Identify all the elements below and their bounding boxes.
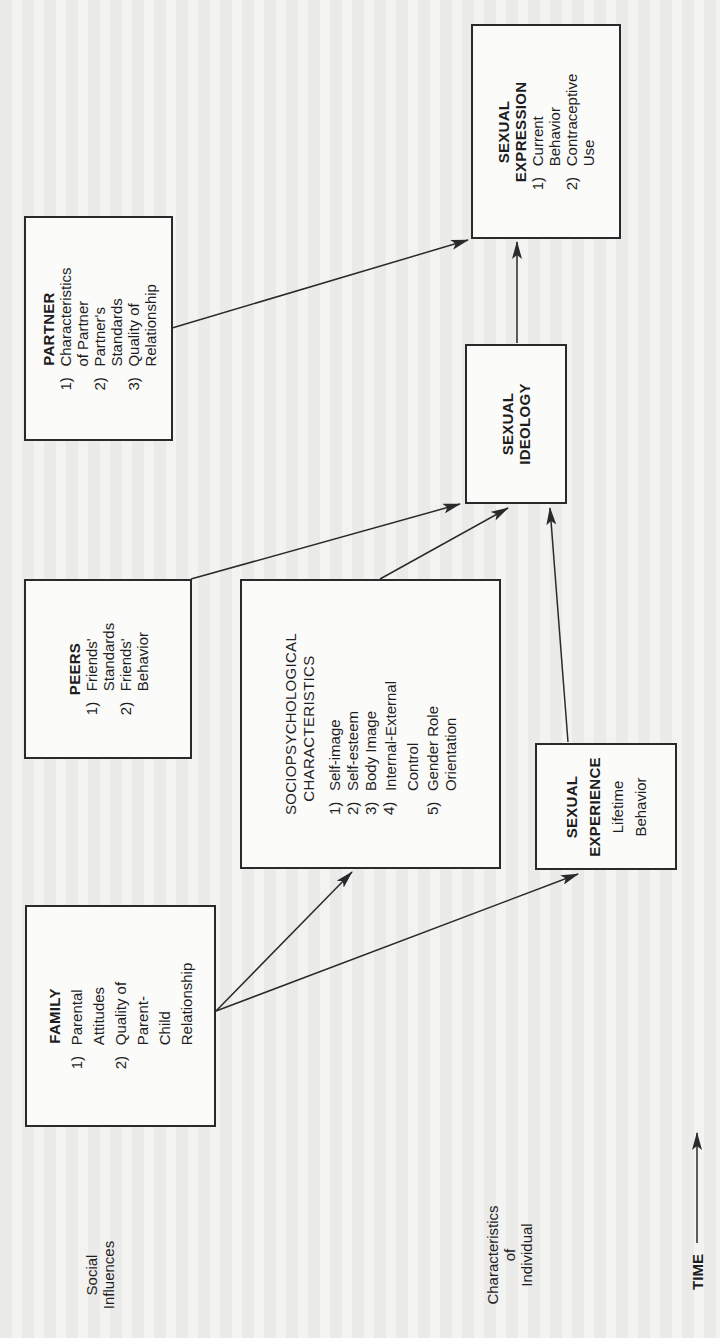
peers-box: PEERS 1)Friends' Standards 2)Friends' Be… <box>24 579 192 759</box>
arrow-peers-to-sexual-ideology <box>191 504 460 579</box>
sexual-experience-box: SEXUAL EXPERIENCE Lifetime Behavior <box>535 743 677 870</box>
list-item: 2)Partner's Standards <box>90 267 124 390</box>
sexual-expression-box: SEXUAL EXPRESSION 1)Current Behavior 2)C… <box>471 24 621 239</box>
arrow-sexual-experience-to-sexual-ideology <box>550 508 568 742</box>
sexual-experience-subtitle: Lifetime Behavior <box>606 757 652 857</box>
list-item: 3)Body Image <box>362 633 380 815</box>
partner-title: PARTNER <box>39 267 56 390</box>
arrow-sociopsychological-to-sexual-ideology <box>380 508 508 579</box>
partner-content: PARTNER 1)Characteristics of Partner 2)P… <box>39 267 158 390</box>
list-item: 3)Quality of Relationship <box>124 267 158 390</box>
label-social-influences: Social Influences <box>83 1241 117 1309</box>
sexual-ideology-content: SEXUAL IDEOLOGY <box>499 383 533 465</box>
list-item: 2)Friends' Behavior <box>117 623 151 715</box>
label-time: TIME <box>689 1254 706 1290</box>
family-box: FAMILY 1)Parental Attitudes 2)Quality of… <box>25 905 216 1127</box>
sociopsychological-items: 1)Self-image 2)Self-esteem 3)Body Image … <box>326 633 460 815</box>
family-items: 1)Parental Attitudes 2)Quality of Parent… <box>66 963 198 1070</box>
list-item: 2)Self-esteem <box>344 633 362 815</box>
sexual-expression-content: SEXUAL EXPRESSION 1)Current Behavior 2)C… <box>495 73 597 190</box>
sexual-experience-content: SEXUAL EXPERIENCE Lifetime Behavior <box>560 757 652 857</box>
sexual-ideology-title: SEXUAL IDEOLOGY <box>499 383 533 465</box>
sexual-expression-title: SEXUAL EXPRESSION <box>495 73 529 190</box>
list-item: 2)Quality of Parent-Child Relationship <box>110 963 198 1070</box>
arrow-family-to-sociopsychological <box>216 872 352 1011</box>
list-item: 5)Gender Role Orientation <box>424 633 460 815</box>
peers-items: 1)Friends' Standards 2)Friends' Behavior <box>83 623 151 715</box>
arrow-partner-to-sexual-expression <box>172 240 468 328</box>
family-content: FAMILY 1)Parental Attitudes 2)Quality of… <box>44 963 198 1070</box>
sociopsychological-box: SOCIOPSYCHOLOGICAL CHARACTERISTICS 1)Sel… <box>240 579 501 869</box>
sexual-ideology-box: SEXUAL IDEOLOGY <box>465 344 567 504</box>
sexual-experience-title: SEXUAL EXPERIENCE <box>560 757 606 857</box>
family-title: FAMILY <box>44 963 66 1070</box>
list-item: 1)Friends' Standards <box>83 623 117 715</box>
sociopsychological-content: SOCIOPSYCHOLOGICAL CHARACTERISTICS 1)Sel… <box>282 633 460 815</box>
list-item: 4)Internal-External Control <box>380 633 424 815</box>
list-item: 2)Contraceptive Use <box>563 73 597 190</box>
partner-box: PARTNER 1)Characteristics of Partner 2)P… <box>24 216 173 441</box>
label-characteristics-of-individual: Characteristics of Individual <box>484 1205 535 1304</box>
list-item: 1)Self-image <box>326 633 344 815</box>
arrow-family-to-sexual-experience <box>216 874 578 1011</box>
list-item: 1)Parental Attitudes <box>66 963 110 1070</box>
list-item: 1)Characteristics of Partner <box>56 267 90 390</box>
partner-items: 1)Characteristics of Partner 2)Partner's… <box>56 267 158 390</box>
sexual-expression-items: 1)Current Behavior 2)Contraceptive Use <box>529 73 597 190</box>
sociopsychological-title: SOCIOPSYCHOLOGICAL CHARACTERISTICS <box>282 633 318 815</box>
peers-content: PEERS 1)Friends' Standards 2)Friends' Be… <box>66 623 151 715</box>
list-item: 1)Current Behavior <box>529 73 563 190</box>
peers-title: PEERS <box>66 623 83 715</box>
